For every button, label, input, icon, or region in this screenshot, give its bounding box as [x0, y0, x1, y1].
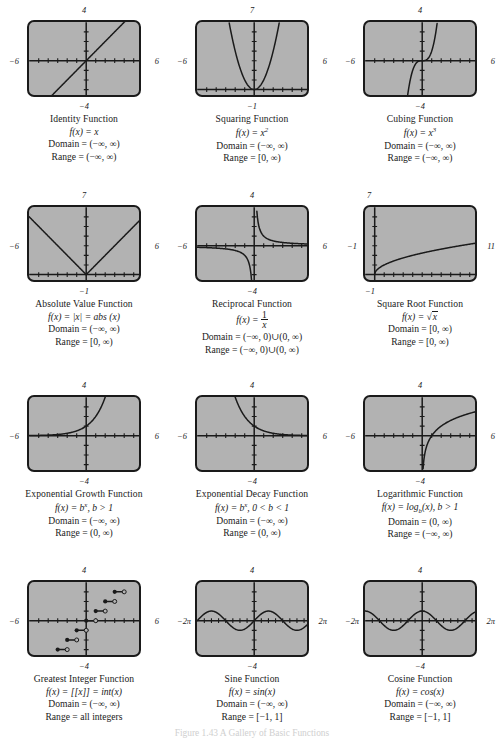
axis-label-right: 2π [487, 618, 495, 626]
function-formula: f(x) = |x| = abs (x) [35, 311, 133, 324]
function-range: Range = (−∞, ∞) [377, 528, 463, 541]
axis-label-right: 6 [155, 58, 159, 66]
plot-area-reciprocal: 4−4−66 [177, 191, 327, 296]
function-panel-cosine: 4−4−2π2π Cosine Function f(x) = cos(x) D… [336, 560, 504, 737]
function-title: Greatest Integer Function [34, 673, 135, 686]
function-range: Range = [0, ∞) [35, 336, 133, 349]
function-formula: f(x) = x3 [384, 126, 455, 140]
function-range: Range = (0, ∞) [196, 527, 308, 540]
function-domain: Domain = (−∞, ∞) [34, 698, 135, 711]
function-title: Sine Function [216, 673, 287, 686]
function-title: Cubing Function [384, 113, 455, 126]
axis-label-left: −6 [345, 58, 355, 66]
axis-label-left: −6 [177, 58, 187, 66]
graph-box [363, 20, 477, 97]
function-title: Logarithmic Function [377, 488, 463, 501]
function-range: Range = [−1, 1] [384, 711, 455, 724]
plot-area-greatest-integer: 4−4−66 [9, 566, 159, 671]
plot-area-exponential-decay: 4−4−66 [177, 381, 327, 486]
axis-label-top: 4 [418, 7, 422, 15]
graph-box [363, 395, 477, 472]
function-formula: f(x) = bx, 0 < b < 1 [196, 501, 308, 515]
function-domain: Domain = (−∞, ∞) [384, 140, 455, 153]
plot-area-exponential-growth: 4−4−66 [9, 381, 159, 486]
function-title: Square Root Function [377, 298, 463, 311]
axis-label-bottom: −4 [415, 663, 425, 671]
axis-label-left: −2π [345, 618, 359, 626]
axis-label-left: −6 [9, 433, 19, 441]
axis-label-top: 4 [250, 567, 254, 575]
panel-caption: Identity Function f(x) = x Domain = (−∞,… [48, 113, 119, 164]
axis-label-top: 7 [250, 7, 254, 15]
function-panel-greatest-integer: 4−4−66 Greatest Integer Function f(x) = … [0, 560, 168, 737]
function-panel-sine: 4−4−2π2π Sine Function f(x) = sin(x) Dom… [168, 560, 336, 737]
axis-label-bottom: −4 [415, 478, 425, 486]
axis-label-left: −6 [177, 243, 187, 251]
function-formula: f(x) = [[x]] = int(x) [34, 686, 135, 699]
panel-caption: Exponential Growth Function f(x) = bx, b… [25, 488, 142, 540]
function-range: Range = (0, ∞) [25, 527, 142, 540]
function-panel-square-root: 7−1−111 Square Root Function f(x) = √x D… [336, 185, 504, 375]
function-panel-absolute-value: 7−1−66 Absolute Value Function f(x) = |x… [0, 185, 168, 375]
axis-label-bottom: −1 [79, 288, 89, 296]
axis-label-top: 4 [250, 192, 254, 200]
axis-label-top: 4 [82, 7, 86, 15]
axis-label-right: 6 [491, 58, 495, 66]
panel-caption: Cosine Function f(x) = cos(x) Domain = (… [384, 673, 455, 724]
graph-box [27, 205, 141, 282]
function-range: Range = [0, ∞) [216, 152, 289, 165]
plot-area-identity: 4−4−66 [9, 6, 159, 111]
panel-caption: Absolute Value Function f(x) = |x| = abs… [35, 298, 133, 349]
graph-box [363, 205, 477, 282]
axis-label-bottom: −1 [365, 288, 375, 296]
function-domain: Domain = [0, ∞) [377, 323, 463, 336]
function-formula: f(x) = x [48, 126, 119, 139]
axis-label-right: 6 [155, 618, 159, 626]
function-formula: f(x) = 1x [202, 311, 302, 332]
function-range: Range = (−∞, ∞) [384, 152, 455, 165]
axis-label-bottom: −4 [79, 103, 89, 111]
axis-label-right: 11 [487, 243, 495, 251]
panel-caption: Cubing Function f(x) = x3 Domain = (−∞, … [384, 113, 455, 165]
graph-box [27, 395, 141, 472]
axis-label-left: −2π [177, 618, 191, 626]
axis-label-right: 6 [323, 243, 327, 251]
function-panel-reciprocal: 4−4−66 Reciprocal Function f(x) = 1x Dom… [168, 185, 336, 375]
function-panel-logarithmic: 4−4−66 Logarithmic Function f(x) = logb(… [336, 375, 504, 560]
graph-box [27, 580, 141, 657]
function-formula: f(x) = bx, b > 1 [25, 501, 142, 515]
panel-caption: Square Root Function f(x) = √x Domain = … [377, 298, 463, 349]
panel-caption: Reciprocal Function f(x) = 1x Domain = (… [202, 298, 302, 357]
function-domain: Domain = (−∞, ∞) [48, 138, 119, 151]
axis-label-top: 7 [82, 192, 86, 200]
graph-box [195, 395, 309, 472]
panel-caption: Greatest Integer Function f(x) = [[x]] =… [34, 673, 135, 724]
panel-caption: Logarithmic Function f(x) = logb(x), b >… [377, 488, 463, 541]
function-title: Squaring Function [216, 113, 289, 126]
axis-label-bottom: −1 [247, 103, 257, 111]
function-formula: f(x) = logb(x), b > 1 [377, 501, 463, 516]
function-range: Range = [0, ∞) [377, 336, 463, 349]
function-panel-squaring: 7−1−66 Squaring Function f(x) = x2 Domai… [168, 0, 336, 185]
axis-label-right: 6 [323, 433, 327, 441]
axis-label-bottom: −4 [79, 663, 89, 671]
panel-caption: Exponential Decay Function f(x) = bx, 0 … [196, 488, 308, 540]
axis-label-bottom: −4 [79, 478, 89, 486]
function-domain: Domain = (−∞, ∞) [25, 515, 142, 528]
function-title: Cosine Function [384, 673, 455, 686]
axis-label-bottom: −4 [247, 288, 257, 296]
panel-caption: Sine Function f(x) = sin(x) Domain = (−∞… [216, 673, 287, 724]
plot-area-cosine: 4−4−2π2π [345, 566, 495, 671]
function-range: Range = (−∞, ∞) [48, 151, 119, 164]
axis-label-left: −6 [177, 433, 187, 441]
plot-area-sine: 4−4−2π2π [177, 566, 327, 671]
axis-label-top: 4 [82, 567, 86, 575]
axis-label-right: 6 [155, 243, 159, 251]
plot-area-squaring: 7−1−66 [177, 6, 327, 111]
graph-box [363, 580, 477, 657]
graph-box [195, 205, 309, 282]
function-title: Absolute Value Function [35, 298, 133, 311]
axis-label-top: 4 [418, 382, 422, 390]
axis-label-left: −6 [9, 58, 19, 66]
function-panel-identity: 4−4−66 Identity Function f(x) = x Domain… [0, 0, 168, 185]
